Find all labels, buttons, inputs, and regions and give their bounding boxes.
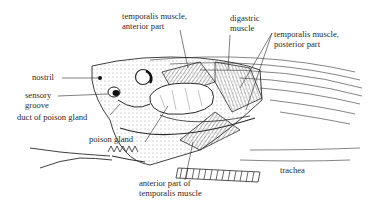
tongue	[30, 148, 110, 156]
label-line: duct of poison gland	[17, 113, 87, 123]
label-nostril: nostril	[32, 73, 54, 83]
label-line: poison gland	[89, 135, 133, 145]
label-line: anterior part	[122, 22, 187, 32]
label-line: muscle	[230, 24, 260, 34]
label-temporalis-anterior: temporalis muscle, anterior part	[122, 12, 187, 31]
label-line: posterior part	[274, 40, 339, 50]
label-line: groove	[25, 101, 51, 111]
label-line: nostril	[32, 73, 54, 83]
label-duct: duct of poison gland	[17, 113, 87, 123]
label-trachea: trachea	[280, 166, 305, 176]
label-sensory-groove: sensory groove	[25, 91, 51, 110]
nostril-mark	[98, 76, 102, 80]
label-temporalis-posterior: temporalis muscle, posterior part	[274, 30, 339, 49]
label-digastric: digastric muscle	[230, 14, 260, 33]
poison-gland-shape	[150, 83, 214, 114]
label-line: temporalis muscle	[139, 189, 202, 199]
label-line: trachea	[280, 166, 305, 176]
label-poison-gland: poison gland	[89, 135, 133, 145]
label-anterior-temporalis: anterior part of temporalis muscle	[139, 179, 202, 198]
